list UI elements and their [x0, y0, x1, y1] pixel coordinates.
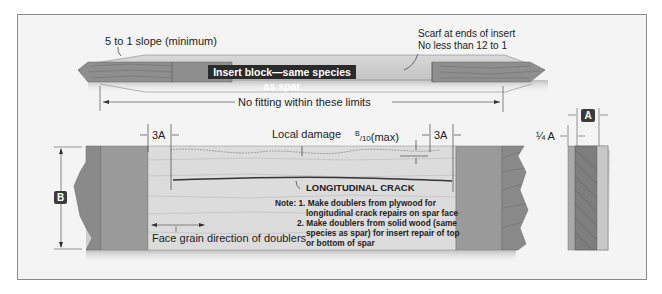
insert-block-label: Insert block—same species as spar	[208, 65, 356, 79]
note-prefix: Note: 1.	[275, 198, 305, 208]
a-badge: A	[581, 109, 595, 122]
scarf-label-line1: Scarf at ends of insert	[418, 28, 515, 39]
note1-line2: longitudinal crack repairs on spar face	[306, 208, 458, 218]
b-tenth-max-label: B/10(max)	[355, 130, 399, 143]
max-suffix: (max)	[371, 131, 399, 143]
diagram-graphics	[0, 0, 662, 294]
quarter-a-label: ¼ A	[536, 130, 555, 142]
note2-line2: species as spar) for insert repair of to…	[306, 228, 460, 238]
b-den: /10	[360, 134, 371, 143]
local-damage-label: Local damage	[272, 128, 341, 140]
note2-line1: Make doublers from solid wood (same	[306, 218, 457, 228]
grain-label: Face grain direction of doublers	[152, 232, 306, 244]
note1-line1: Make doublers from plywood for	[308, 198, 436, 208]
dim-3a-left: 3A	[152, 129, 165, 141]
limits-label: No fitting within these limits	[238, 96, 371, 108]
dim-3a-right: 3A	[434, 129, 447, 141]
note2-line3: or bottom of spar	[306, 238, 375, 248]
scarf-label-line2: No less than 12 to 1	[418, 40, 507, 51]
note2-prefix: 2.	[297, 218, 304, 228]
note-2: 2. Make doublers from solid wood (same	[297, 218, 457, 228]
b-badge: B	[54, 191, 67, 204]
slope-label: 5 to 1 slope (minimum)	[105, 35, 217, 47]
note-1: Note: 1. Make doublers from plywood for	[275, 198, 436, 208]
crack-label: LONGITUDINAL CRACK	[306, 182, 415, 193]
